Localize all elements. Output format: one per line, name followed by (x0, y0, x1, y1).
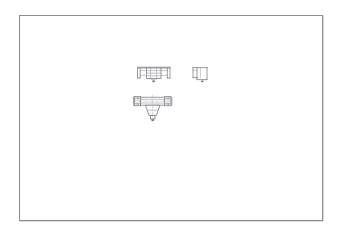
plan-branch-stub (152, 80, 154, 82)
plan-center-body (147, 68, 162, 78)
cad-viewport[interactable] (0, 0, 340, 236)
plan-right-flange (161, 68, 170, 78)
top-plan-view[interactable] (136, 65, 182, 87)
side-body-outline (197, 68, 207, 80)
side-partial-view[interactable] (191, 65, 217, 87)
front-section-view[interactable] (133, 93, 185, 127)
side-branch-stub (201, 81, 203, 83)
drawing-area[interactable] (20, 16, 324, 222)
side-flange (193, 68, 197, 78)
drawing-sheet[interactable] (19, 15, 323, 221)
plan-left-flange (138, 68, 147, 78)
